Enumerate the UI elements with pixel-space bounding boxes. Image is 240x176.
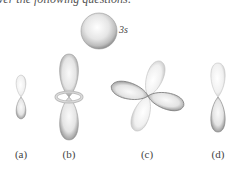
orbital-d-p-lobes [211,63,225,132]
orbital-a-p-lobes [16,75,26,119]
label-b: (b) [63,148,76,160]
label-d: (d) [212,148,225,160]
orbital-3s-sphere [81,13,117,49]
label-c: (c) [141,148,153,160]
orbital-c-cloverleaf [109,58,186,133]
label-3s: 3s [119,24,128,35]
orbital-b-dz2 [56,54,82,140]
label-a: (a) [15,148,27,160]
